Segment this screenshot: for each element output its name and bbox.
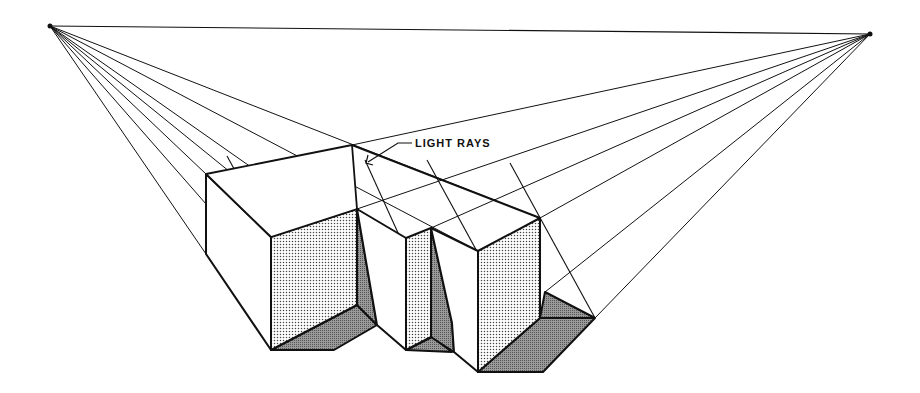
horizon-line [50, 26, 870, 34]
middle-block-front-face [406, 228, 431, 350]
middle-block [357, 209, 478, 372]
left-block [206, 145, 377, 350]
light-rays-label: LIGHT RAYS [415, 137, 491, 149]
perspective-diagram: LIGHT RAYS [0, 0, 920, 393]
